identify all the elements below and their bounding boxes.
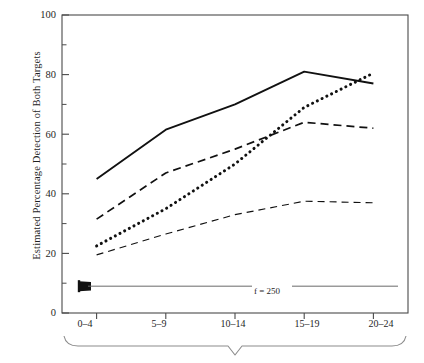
series-line-dashed-medium — [97, 122, 374, 219]
plot-frame — [62, 15, 408, 313]
series-line-dashed-thin — [97, 201, 374, 255]
annotation-arrow-line — [79, 280, 398, 292]
x-tick-marks — [97, 313, 374, 319]
x-axis-brace — [64, 336, 406, 355]
series-lines — [97, 72, 374, 255]
series-line-solid — [97, 72, 374, 179]
chart-figure: Estimated Percentage Detection of Both T… — [0, 0, 424, 363]
y-minor-tick-marks — [62, 45, 67, 283]
plot-canvas — [0, 0, 424, 363]
series-line-dotted — [97, 73, 374, 246]
